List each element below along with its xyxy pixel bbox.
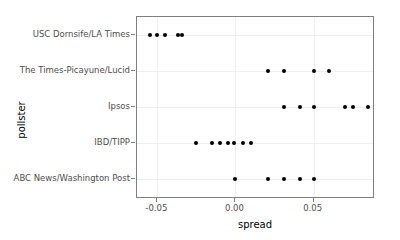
data-point	[148, 33, 152, 37]
dotplot-chart: pollster USC Dornsife/LA TimesThe Times-…	[0, 0, 400, 240]
gridline-row	[137, 71, 373, 72]
gridline-major	[235, 17, 236, 197]
y-axis-tick-mark	[131, 106, 135, 107]
x-axis-tick-mark	[313, 198, 314, 202]
y-axis-tick-mark	[131, 34, 135, 35]
x-axis-tick-label: 0.05	[303, 203, 322, 213]
x-axis-title: spread	[136, 219, 374, 230]
data-point	[282, 177, 286, 181]
data-point	[312, 69, 316, 73]
x-axis-tick-label: -0.05	[145, 203, 167, 213]
y-axis-tick-marks	[0, 16, 136, 198]
x-axis-tick-mark	[234, 198, 235, 202]
gridline-row	[137, 143, 373, 144]
data-point	[249, 141, 253, 145]
data-point	[266, 69, 270, 73]
gridline-row	[137, 35, 373, 36]
data-point	[343, 105, 347, 109]
gridline-row	[137, 107, 373, 108]
gridline-row	[137, 179, 373, 180]
data-point	[233, 177, 237, 181]
data-point	[218, 141, 222, 145]
data-point	[282, 105, 286, 109]
data-point	[312, 177, 316, 181]
plot-panel	[136, 16, 374, 198]
y-axis-tick-mark	[131, 178, 135, 179]
x-axis-tick-label: 0.00	[225, 203, 244, 213]
data-point	[266, 177, 270, 181]
data-point	[241, 141, 245, 145]
data-point	[298, 105, 302, 109]
x-axis-tick-labels: -0.050.000.05	[136, 203, 374, 215]
y-axis-tick-mark	[131, 142, 135, 143]
gridline-major	[157, 17, 158, 197]
data-point	[298, 177, 302, 181]
x-axis-tick-mark	[156, 198, 157, 202]
data-point	[327, 69, 331, 73]
data-point	[226, 141, 230, 145]
data-point	[282, 69, 286, 73]
data-point	[176, 33, 180, 37]
data-point	[163, 33, 167, 37]
data-point	[351, 105, 355, 109]
data-point	[155, 33, 159, 37]
data-point	[210, 141, 214, 145]
data-point	[232, 141, 236, 145]
y-axis-tick-mark	[131, 70, 135, 71]
data-point	[194, 141, 198, 145]
data-point	[312, 105, 316, 109]
data-point	[180, 33, 184, 37]
data-point	[366, 105, 370, 109]
